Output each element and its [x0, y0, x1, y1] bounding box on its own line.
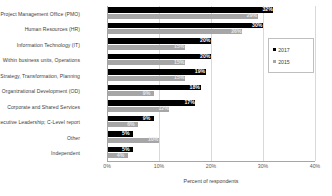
- x-tick-label: 20%: [206, 163, 216, 169]
- bar-value-label: 4%: [117, 153, 125, 158]
- bar-2017: [107, 85, 201, 90]
- category-label: Human Resources (HR): [25, 26, 80, 32]
- chart-row: Executive Leadership; C-Level report9%6%: [107, 115, 315, 131]
- bar-value-label: 15%: [174, 75, 184, 80]
- category-label: Organizational Development (OD): [2, 88, 80, 94]
- chart-row: Corporate and Shared Services17%12%: [107, 99, 315, 115]
- bar-value-label: 9%: [143, 116, 151, 121]
- bar-2017: [107, 38, 211, 43]
- plot-area: Project Management Office (PMO)32%29%Hum…: [107, 6, 315, 161]
- bar-value-label: 20%: [200, 38, 210, 43]
- bar-value-label: 26%: [231, 29, 241, 34]
- category-label: Other: [67, 135, 80, 141]
- legend-swatch-icon: [273, 48, 276, 51]
- chart-legend: 20172015: [268, 38, 314, 73]
- bar-value-label: 10%: [148, 137, 158, 142]
- bar-2015: [107, 14, 258, 19]
- bar-value-label: 18%: [190, 85, 200, 90]
- bar-group: 18%9%: [107, 84, 315, 100]
- bar-2017: [107, 69, 206, 74]
- x-tick-label: 0%: [103, 163, 111, 169]
- legend-item-2017[interactable]: 2017: [273, 46, 290, 53]
- chart-row: Project Management Office (PMO)32%29%: [107, 6, 315, 22]
- bar-chart: Project Management Office (PMO)32%29%Hum…: [0, 0, 332, 196]
- bar-group: 32%29%: [107, 6, 315, 22]
- bar-value-label: 6%: [127, 122, 135, 127]
- bar-2017: [107, 54, 211, 59]
- category-label: Corporate and Shared Services: [7, 104, 80, 110]
- bar-value-label: 32%: [262, 7, 272, 12]
- x-tick-label: 10%: [154, 163, 164, 169]
- x-axis-title: Percent of respondents: [107, 178, 315, 184]
- legend-item-2015[interactable]: 2015: [273, 58, 290, 65]
- bar-value-label: 20%: [200, 54, 210, 59]
- x-axis-line: [107, 161, 315, 162]
- bar-group: 5%10%: [107, 130, 315, 146]
- bar-group: 30%26%: [107, 22, 315, 38]
- bar-value-label: 29%: [247, 13, 257, 18]
- chart-row: Other5%10%: [107, 130, 315, 146]
- category-label: Independent: [51, 150, 80, 156]
- bar-value-label: 12%: [158, 106, 168, 111]
- plot-right-border: [315, 6, 316, 161]
- bar-value-label: 17%: [184, 100, 194, 105]
- legend-swatch-icon: [273, 60, 276, 63]
- bar-value-label: 9%: [143, 91, 151, 96]
- chart-row: Independent5%4%: [107, 146, 315, 162]
- bar-group: 17%12%: [107, 99, 315, 115]
- bar-value-label: 15%: [174, 60, 184, 65]
- chart-row: Organizational Development (OD)18%9%: [107, 84, 315, 100]
- bar-group: 9%6%: [107, 115, 315, 131]
- category-label: Executive Leadership; C-Level report: [0, 119, 80, 125]
- legend-label: 2015: [278, 59, 290, 65]
- chart-row: Human Resources (HR)30%26%: [107, 22, 315, 38]
- y-axis-line: [107, 6, 108, 161]
- bar-value-label: 5%: [122, 131, 130, 136]
- bar-value-label: 30%: [252, 23, 262, 28]
- bar-value-label: 15%: [174, 44, 184, 49]
- x-tick-label: 30%: [258, 163, 268, 169]
- category-label: Project Management Office (PMO): [0, 11, 80, 17]
- bar-group: 5%4%: [107, 146, 315, 162]
- bar-2017: [107, 100, 195, 105]
- bar-2015: [107, 29, 242, 34]
- legend-label: 2017: [278, 47, 290, 53]
- category-label: Strategy, Transformation, Planning: [0, 73, 80, 79]
- x-tick-label: 40%: [310, 163, 320, 169]
- category-label: Information Technology (IT): [17, 42, 80, 48]
- bar-value-label: 19%: [195, 69, 205, 74]
- category-label: Within business units, Operations: [3, 57, 80, 63]
